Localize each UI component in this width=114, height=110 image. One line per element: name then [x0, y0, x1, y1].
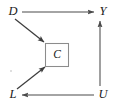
causal-dag-figure: D Y C L U [0, 0, 114, 110]
node-label-c: C [53, 48, 61, 60]
node-label-u: U [98, 87, 108, 101]
node-label-d: D [7, 4, 17, 18]
scan-artifact-speck [10, 70, 12, 72]
node-label-y: Y [100, 4, 109, 18]
node-label-l: L [9, 87, 17, 101]
edge-l-to-c [17, 67, 45, 89]
dag-canvas: D Y C L U [0, 0, 114, 110]
edge-d-to-c [15, 19, 44, 42]
